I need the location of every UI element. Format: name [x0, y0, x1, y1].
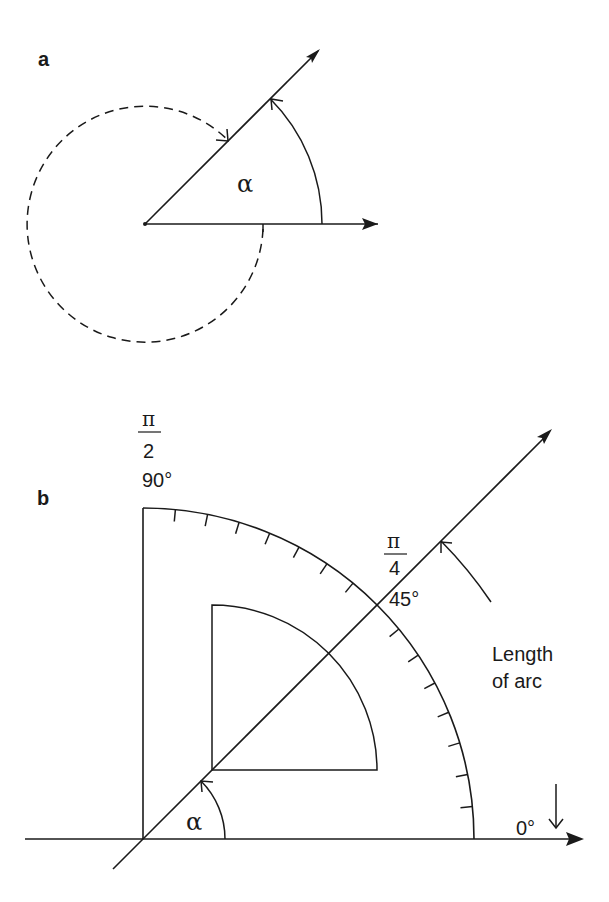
arc-tick-mark [236, 522, 240, 533]
panel-a-origin-dot [143, 222, 147, 226]
label-0-degrees: 0° [516, 817, 535, 839]
angle-diagram: a α b π 2 90° [0, 0, 609, 902]
panel-a-label: a [38, 48, 50, 70]
label-length-line2: of arc [492, 670, 542, 692]
arc-tick-mark [438, 712, 449, 717]
panel-b-alpha-arc [201, 781, 225, 839]
label-denominator-4: 4 [389, 557, 400, 579]
label-90-degrees: 90° [142, 469, 172, 491]
panel-b: b π 2 90° α π 4 45° Length of arc [25, 407, 584, 869]
arc-tick-mark [424, 683, 435, 689]
arc-tick-mark [448, 743, 459, 747]
arc-tick-mark [390, 629, 399, 637]
panel-a-ray-arrow [145, 51, 318, 224]
arc-tick-mark [293, 547, 299, 558]
panel-a-alpha-symbol: α [237, 170, 253, 198]
panel-b-label: b [37, 487, 49, 509]
arc-tick-mark [461, 807, 473, 808]
arc-tick-mark [174, 510, 175, 522]
panel-a: a α [27, 48, 378, 342]
arc-tick-mark [320, 564, 327, 574]
label-pi-numerator-90: π [142, 407, 155, 431]
arc-tick-mark [456, 774, 468, 776]
label-45-degrees: 45° [389, 588, 419, 610]
arc-tick-mark [205, 514, 207, 526]
panel-b-diagonal-ray [113, 437, 545, 869]
length-of-arc-arrow [441, 541, 491, 602]
arc-tick-mark [408, 655, 418, 662]
arc-tick-mark [265, 533, 270, 544]
label-pi-numerator-45: π [387, 529, 400, 553]
arc-tick-mark [345, 583, 353, 592]
panel-b-alpha-symbol: α [186, 808, 202, 836]
label-denominator-2: 2 [143, 440, 154, 462]
label-length-line1: Length [492, 643, 553, 665]
panel-a-alpha-arc [270, 99, 322, 224]
